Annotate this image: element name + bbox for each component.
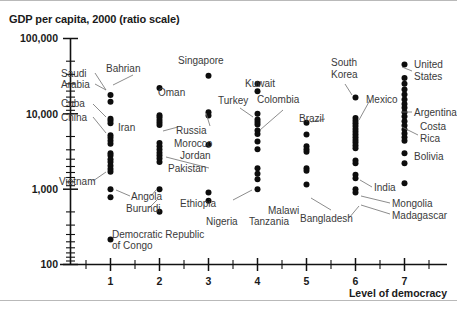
data-point <box>255 122 261 128</box>
label-mongolia: Mongolia <box>392 198 433 209</box>
label-south-korea-line1: South <box>331 57 357 68</box>
label-argentina: Argentina <box>414 107 457 118</box>
data-point <box>353 175 359 181</box>
figure-container: GDP per capita, 2000 (ratio scale) <box>0 0 457 309</box>
label-oman: Oman <box>158 87 185 98</box>
data-point <box>255 165 261 171</box>
label-saudi-arabia-line1: Saudi <box>61 68 87 79</box>
data-point <box>255 186 261 192</box>
y-tick-label-10000: 10,000 <box>26 108 58 120</box>
data-point <box>353 94 359 100</box>
label-united-states-line1: United <box>414 59 443 70</box>
data-point <box>255 176 261 182</box>
label-kuwait: Kuwait <box>245 78 275 89</box>
data-point <box>304 149 310 155</box>
data-point <box>157 122 163 128</box>
data-point <box>304 182 310 188</box>
label-russia: Russia <box>176 125 207 136</box>
label-china: China <box>61 112 88 123</box>
label-mexico: Mexico <box>366 94 398 105</box>
label-ethiopia: Ethiopia <box>180 198 217 209</box>
label-morocco: Morocco <box>174 138 213 149</box>
data-point <box>255 131 261 137</box>
data-point <box>255 111 261 117</box>
x-tick-label-2: 2 <box>157 275 163 287</box>
data-point <box>108 120 114 126</box>
label-burundi: Burundi <box>126 203 160 214</box>
label-singapore: Singapore <box>178 55 224 66</box>
data-point <box>402 138 408 144</box>
data-point <box>255 138 261 144</box>
label-colombia: Colombia <box>257 94 300 105</box>
data-point <box>206 190 212 196</box>
x-tick-label-3: 3 <box>206 275 212 287</box>
label-brazil: Brazil <box>299 113 324 124</box>
data-point <box>255 171 261 177</box>
data-point <box>108 99 114 105</box>
label-united-states-line2: States <box>414 71 442 82</box>
y-tick-label-1000: 1,000 <box>32 183 58 195</box>
x-tick-label-6: 6 <box>353 275 359 287</box>
data-point <box>108 141 114 147</box>
label-angola: Angola <box>131 191 163 202</box>
data-point <box>304 132 310 138</box>
point-labels: Saudi Arabia Bahrian Cuba China Vietnam … <box>59 55 457 251</box>
label-malawi: Malawi <box>268 205 299 216</box>
data-point <box>402 160 408 166</box>
data-point-group <box>353 94 359 195</box>
data-point <box>402 180 408 186</box>
data-point <box>206 73 212 79</box>
data-point <box>353 190 359 196</box>
data-point <box>402 150 408 156</box>
label-jordan: Jordan <box>180 150 211 161</box>
label-costa-rica-line2: Rica <box>420 133 440 144</box>
label-drc-line2: of Congo <box>112 240 153 251</box>
data-point <box>353 145 359 151</box>
label-iran: Iran <box>118 122 135 133</box>
data-point <box>157 159 163 165</box>
data-point <box>353 160 359 166</box>
scatter-plot: 100,000 10,000 1,000 100 <box>0 0 457 309</box>
data-point-group <box>304 120 310 188</box>
data-point <box>402 62 408 68</box>
data-point <box>304 168 310 174</box>
label-drc-line1: Democratic Republic <box>112 229 204 240</box>
x-tick-label-7: 7 <box>402 275 408 287</box>
data-point-group <box>402 62 408 187</box>
label-nigeria: Nigeria <box>206 216 238 227</box>
label-bangladesh: Bangladesh <box>300 213 353 224</box>
data-point <box>108 169 114 175</box>
data-point-group <box>108 92 114 242</box>
label-pakistan: Pakistan <box>168 163 206 174</box>
data-point <box>255 146 261 152</box>
label-bahrian: Bahrian <box>106 63 140 74</box>
label-south-korea-line2: Korea <box>331 69 358 80</box>
label-turkey: Turkey <box>218 95 248 106</box>
label-vietnam: Vietnam <box>59 176 96 187</box>
label-bolivia: Bolivia <box>414 151 444 162</box>
label-india: India <box>374 182 396 193</box>
y-tick-label-100: 100 <box>40 258 58 270</box>
x-tick-label-5: 5 <box>304 275 310 287</box>
data-point <box>108 186 114 192</box>
data-point <box>108 194 114 200</box>
data-point <box>402 75 408 81</box>
x-axis-title: Level of democracy <box>349 287 447 299</box>
data-point <box>402 81 408 87</box>
label-costa-rica-line1: Costa <box>420 121 447 132</box>
x-tick-label-1: 1 <box>108 275 114 287</box>
x-tick-label-4: 4 <box>255 275 261 287</box>
label-cuba: Cuba <box>61 98 85 109</box>
data-point <box>108 92 114 98</box>
label-tanzania: Tanzania <box>249 216 289 227</box>
label-madagascar: Madagascar <box>392 210 448 221</box>
y-tick-label-100000: 100,000 <box>20 32 58 44</box>
label-saudi-arabia-line2: Arabia <box>61 79 90 90</box>
